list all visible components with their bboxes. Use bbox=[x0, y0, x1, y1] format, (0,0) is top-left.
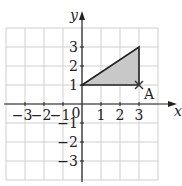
x-axis-label: x bbox=[174, 103, 182, 119]
y-tick-label: −2 bbox=[57, 134, 78, 150]
origin-label: 0 bbox=[72, 105, 81, 121]
y-tick-label: 2 bbox=[69, 58, 78, 74]
y-tick-label: 3 bbox=[69, 39, 78, 55]
x-tick-label: −2 bbox=[31, 107, 52, 123]
coordinate-diagram: xy −3−2−1123321−1−2−30 A bbox=[0, 0, 182, 186]
axes: xy bbox=[4, 7, 182, 182]
x-tick-label: −3 bbox=[12, 107, 33, 123]
x-tick-label: 3 bbox=[135, 107, 144, 123]
x-tick-label: 2 bbox=[116, 107, 125, 123]
y-tick-label: 1 bbox=[69, 77, 78, 93]
point-a: A bbox=[135, 81, 155, 102]
x-tick-label: 1 bbox=[97, 107, 106, 123]
y-axis-arrow-icon bbox=[79, 11, 85, 20]
y-tick-label: −3 bbox=[57, 153, 78, 169]
y-axis-label: y bbox=[69, 7, 79, 23]
point-label: A bbox=[143, 86, 155, 102]
